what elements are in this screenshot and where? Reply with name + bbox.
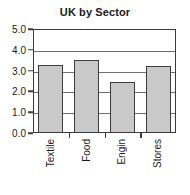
- bar-chart: UK by Sector 5.04.03.02.01.00.0 TextileF…: [0, 0, 190, 195]
- y-tick-label: 5.0: [12, 24, 26, 35]
- x-tick-mark: [105, 133, 107, 138]
- y-tick-label: 3.0: [12, 65, 26, 76]
- x-tick-mark: [140, 133, 142, 138]
- chart-title: UK by Sector: [0, 6, 190, 18]
- x-axis-labels: TextileFoodEnginStores: [33, 139, 176, 193]
- bar: [146, 66, 171, 133]
- y-tick-label: 1.0: [12, 107, 26, 118]
- y-tick-label: 4.0: [12, 44, 26, 55]
- bar: [74, 60, 99, 133]
- x-tick-label: Textile: [45, 139, 56, 167]
- x-tick-label: Engin: [116, 139, 127, 165]
- x-tick-mark: [69, 133, 71, 138]
- y-tick-label: 2.0: [12, 86, 26, 97]
- bars-layer: [33, 29, 176, 133]
- y-axis: 5.04.03.02.01.00.0: [0, 29, 30, 133]
- x-tick-label: Stores: [152, 139, 163, 168]
- y-tick-label: 0.0: [12, 128, 26, 139]
- x-tick-label: Food: [81, 139, 92, 162]
- bar: [110, 82, 135, 133]
- bar: [38, 65, 63, 133]
